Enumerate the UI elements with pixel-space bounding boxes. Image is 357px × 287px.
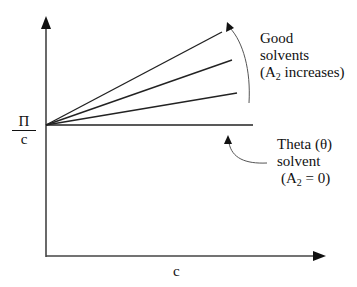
increasing-a2-arrowhead-icon [226, 22, 234, 32]
y-axis-label: Π c [12, 114, 36, 147]
good-solvents-suffix: increases) [281, 64, 345, 80]
theta-solvent-annotation: Theta (θ) solvent (A2 = 0) [277, 136, 332, 187]
good-solvent-line-mid [46, 60, 232, 125]
increasing-a2-curved-arrow [230, 28, 249, 103]
y-axis-label-denominator: c [12, 131, 36, 147]
theta-suffix: = 0) [302, 170, 330, 186]
y-axis-label-numerator: Π [12, 114, 36, 131]
theta-curved-arrow [229, 143, 267, 163]
good-solvent-line-low [46, 93, 237, 125]
y-axis-arrowhead-icon [41, 16, 51, 29]
x-axis-arrowhead-icon [313, 251, 326, 261]
good-solvents-line2: solvents [260, 47, 345, 64]
good-solvents-a-text: (A [260, 64, 276, 80]
theta-a-text: (A [281, 170, 297, 186]
good-solvents-line3: (A2 increases) [260, 64, 345, 81]
theta-line2: solvent [277, 153, 332, 170]
theta-line1: Theta (θ) [277, 136, 332, 153]
theta-line3: (A2 = 0) [277, 170, 332, 187]
good-solvents-annotation: Good solvents (A2 increases) [260, 30, 345, 81]
good-solvents-line1: Good [260, 30, 345, 47]
theta-arrowhead-icon [224, 135, 232, 144]
good-solvent-line-high [46, 32, 222, 125]
x-axis-label: c [173, 263, 180, 280]
